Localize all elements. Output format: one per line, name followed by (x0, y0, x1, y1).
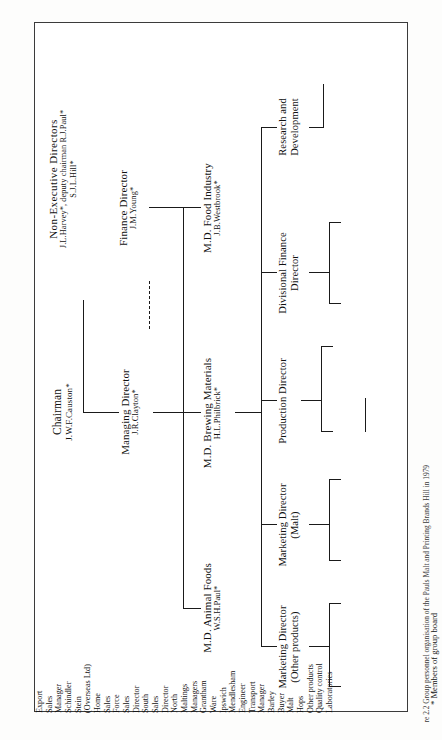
finance-name: J.M.Young* (129, 133, 139, 283)
edge-mkt-malt-bus (329, 479, 330, 561)
edge-maltings-sites (365, 398, 366, 432)
edge-drop-home (329, 603, 341, 604)
edge-md-finance-dashed (149, 281, 150, 329)
chairman-title: Chairman (51, 337, 64, 487)
edge-drop-mkt-malt (261, 524, 277, 525)
export-line3: Manager (54, 639, 64, 713)
edge-drop-randd (261, 127, 277, 128)
edge-brewing-trunk (235, 412, 261, 413)
node-md-animal-foods: M.D. Animal Foods W.S.H.Paul* (201, 533, 223, 683)
edge-drop-production (261, 400, 277, 401)
edge-production-trunk (301, 400, 321, 401)
md-name: J.R.Clayton* (131, 337, 141, 487)
north-line3: North (170, 651, 180, 713)
leaf-sales-director-south: Sales Director South (122, 651, 151, 713)
chairman-name: J.W.F.Causton* (64, 337, 74, 487)
org-chart: Chairman J.W.F.Causton* Non-Executive Di… (35, 23, 409, 713)
leaf-schindler-stein: Schindler Stein (Overseas Ltd) (64, 631, 93, 713)
edge-chairman-nonexec (83, 300, 84, 412)
edge-drop-food (183, 207, 201, 208)
edge-finance-down (149, 207, 183, 208)
edge-directorate-bus (261, 127, 262, 647)
home-line1: Home (93, 653, 103, 713)
transport-line2: Manager (257, 647, 267, 713)
edge-drop-animal (183, 608, 201, 609)
engineer-line1: Engineer (238, 653, 248, 713)
edge-divfinance-trunk (309, 272, 329, 273)
site-line4: Mendlesham (228, 633, 238, 713)
leaf-export-sales-manager: Export Sales Manager (35, 639, 64, 713)
schindler-line1: Schindler (64, 631, 74, 713)
mkt-malt-title: Marketing Director (277, 463, 289, 587)
figure-frame: Chairman J.W.F.Causton* Non-Executive Di… (34, 22, 408, 712)
figure-caption: Figure 2.2 Group personnel organisation … (422, 46, 431, 722)
maltings-line1: Maltings (180, 647, 190, 713)
nonexec-line2: J.L.Harvey*, deputy chairman R.J.Paul* (59, 49, 68, 309)
leaf-sales-director-north: Sales Director North (151, 651, 180, 713)
node-divisional-finance-director: Divisional Finance Director (277, 211, 301, 335)
md-animal-name: W.S.H.Paul* (213, 533, 223, 683)
maltings-line2: Managers (190, 647, 200, 713)
node-finance-director: Finance Director J.M.Young* (117, 133, 139, 283)
node-marketing-director-malt: Marketing Director (Malt) (277, 463, 301, 587)
nonexec-title: Non-Executive Directors (47, 49, 59, 309)
divfin-sub: Director (289, 211, 301, 335)
edge-drop-south (329, 560, 341, 561)
south-line1: Sales (122, 651, 132, 713)
edge-drop-divfinance (261, 272, 277, 273)
node-research-and-development: Research and Development (277, 65, 301, 189)
mkt-other-title: Marketing Director (277, 583, 289, 711)
rotated-chart-layer: Chairman J.W.F.Causton* Non-Executive Di… (35, 23, 409, 713)
home-line3: Force (112, 653, 122, 713)
south-line2: Director (132, 651, 142, 713)
md-brewing-name: H.L.Philbrick* (213, 338, 223, 488)
barley-line1: Barley (267, 657, 277, 713)
mkt-other-sub: (Other products) (289, 583, 301, 711)
edge-drop-north (329, 479, 341, 480)
divfin-title: Divisional Finance (277, 211, 289, 335)
leaf-maltings-managers: Maltings Managers (180, 647, 199, 713)
edge-randd-trunk (309, 127, 323, 128)
scanned-page: Chairman J.W.F.Causton* Non-Executive Di… (0, 0, 442, 740)
node-production-director: Production Director (277, 337, 289, 465)
nonexec-line3: S.J.L.Hill* (69, 49, 78, 309)
edge-drop-export (329, 686, 341, 687)
edge-drop-mkt-other (261, 646, 277, 647)
schindler-line2: Stein (74, 631, 84, 713)
edge-drop-maltings (321, 431, 333, 432)
leaf-engineer: Engineer (238, 653, 248, 713)
edge-production-bus (321, 346, 322, 432)
home-line2: Sales (103, 653, 113, 713)
node-md-brewing-materials: M.D. Brewing Materials H.L.Philbrick* (201, 338, 223, 488)
transport-line1: Transport (248, 647, 258, 713)
export-line2: Sales (45, 639, 55, 713)
edge-drop-brewing (183, 412, 201, 413)
mkt-malt-sub: (Malt) (289, 463, 301, 587)
south-line3: South (141, 651, 151, 713)
leaf-home-sales-force: Home Sales Force (93, 653, 122, 713)
node-md-food-industry: M.D. Food Industry J.B.Westbrook* (201, 133, 223, 283)
north-line1: Sales (151, 651, 161, 713)
edge-drop-engineer (321, 346, 333, 347)
edge-divfinance-bus (329, 222, 330, 304)
edge-md-trunk (153, 412, 183, 413)
figure-caption-container: Figure 2.2 Group personnel organisation … (408, 22, 434, 722)
leaf-transport-manager: Transport Manager (248, 647, 267, 713)
randd-title: Research and (277, 65, 289, 189)
lab-line4: Quality control (315, 621, 325, 713)
production-title: Production Director (277, 337, 289, 465)
edge-drop-barley (329, 222, 341, 223)
edge-mkt-malt-trunk (309, 524, 329, 525)
node-chairman: Chairman J.W.F.Causton* (51, 337, 74, 487)
node-managing-director: Managing Director J.R.Clayton* (119, 337, 141, 487)
edge-drop-transport (329, 303, 341, 304)
node-non-executive-directors: Non-Executive Directors J.L.Harvey*, dep… (47, 49, 78, 309)
lab-line3: Other products (306, 621, 316, 713)
edge-chairman-md-vertical (83, 412, 119, 413)
edge-randd-list (323, 84, 324, 128)
north-line2: Director (161, 651, 171, 713)
edge-md-bus (183, 207, 184, 609)
schindler-line3: (Overseas Ltd) (83, 631, 93, 713)
edge-mkt-other-trunk (309, 646, 329, 647)
edge-mkt-other-bus (329, 603, 330, 687)
